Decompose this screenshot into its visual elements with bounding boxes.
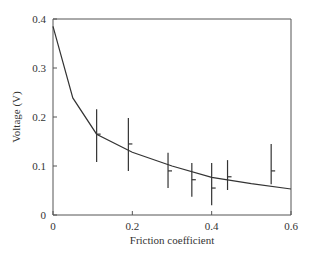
- error-bar: [168, 153, 172, 188]
- x-tick-label: 0.2: [125, 220, 139, 232]
- x-tick-label: 0: [50, 220, 56, 232]
- curve-line: [53, 26, 291, 189]
- error-bar: [212, 163, 216, 205]
- plot-frame: [53, 19, 291, 215]
- error-bar: [228, 160, 232, 190]
- x-tick-label: 0.4: [205, 220, 219, 232]
- x-ticks: 00.20.40.6: [50, 211, 298, 232]
- y-axis-label: Voltage (V): [10, 91, 23, 143]
- chart: 00.20.40.6 00.10.20.30.4 Friction coeffi…: [0, 0, 309, 256]
- x-axis-label: Friction coefficient: [130, 234, 214, 246]
- curve-series: [53, 26, 291, 189]
- y-tick-label: 0.1: [32, 160, 46, 172]
- errorbar-series: [97, 109, 276, 205]
- y-tick-label: 0.3: [32, 62, 46, 74]
- error-bar: [192, 163, 196, 197]
- y-tick-label: 0.4: [32, 13, 46, 25]
- error-bar: [128, 118, 132, 171]
- y-tick-label: 0.2: [32, 111, 46, 123]
- error-bar: [271, 144, 275, 184]
- x-tick-label: 0.6: [284, 220, 298, 232]
- y-tick-label: 0: [41, 209, 47, 221]
